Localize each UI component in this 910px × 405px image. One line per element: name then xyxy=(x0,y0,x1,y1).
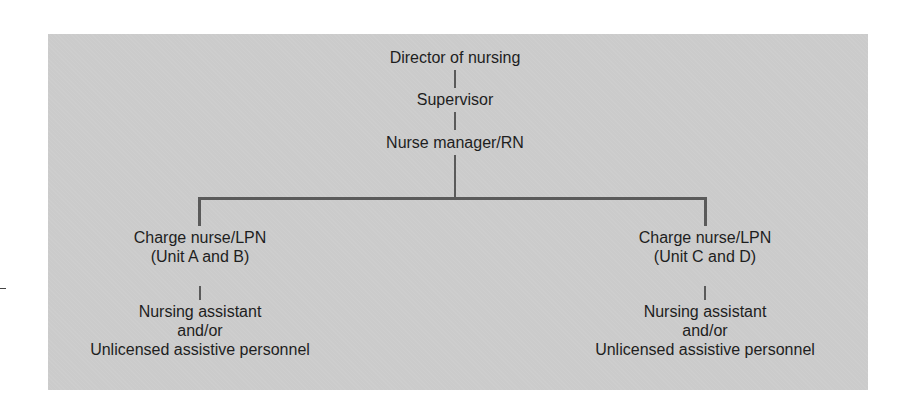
connector-charge-staff-right xyxy=(704,286,706,300)
connector-supervisor-manager xyxy=(454,112,456,130)
node-staff-ab: Nursing assistant and/or Unlicensed assi… xyxy=(90,302,310,359)
connector-bar-right xyxy=(704,197,707,226)
connector-charge-staff-left xyxy=(199,286,201,300)
staff-line-2: and/or xyxy=(595,321,815,340)
connector-bar-left xyxy=(198,197,201,226)
charge-nurse-title: Charge nurse/LPN xyxy=(134,228,267,247)
connector-manager-bar xyxy=(454,155,456,199)
node-charge-nurse-ab: Charge nurse/LPN (Unit A and B) xyxy=(134,228,267,266)
node-supervisor: Supervisor xyxy=(417,90,493,109)
staff-line-1: Nursing assistant xyxy=(595,302,815,321)
charge-nurse-units: (Unit C and D) xyxy=(639,247,772,266)
connector-director-supervisor xyxy=(454,70,456,88)
branch-bar xyxy=(198,197,707,200)
node-director-of-nursing: Director of nursing xyxy=(390,48,521,67)
charge-nurse-title: Charge nurse/LPN xyxy=(639,228,772,247)
charge-nurse-units: (Unit A and B) xyxy=(134,247,267,266)
staff-line-3: Unlicensed assistive personnel xyxy=(90,340,310,359)
margin-mark xyxy=(0,288,6,289)
node-nurse-manager: Nurse manager/RN xyxy=(386,133,524,152)
staff-line-1: Nursing assistant xyxy=(90,302,310,321)
node-charge-nurse-cd: Charge nurse/LPN (Unit C and D) xyxy=(639,228,772,266)
node-staff-cd: Nursing assistant and/or Unlicensed assi… xyxy=(595,302,815,359)
staff-line-2: and/or xyxy=(90,321,310,340)
staff-line-3: Unlicensed assistive personnel xyxy=(595,340,815,359)
